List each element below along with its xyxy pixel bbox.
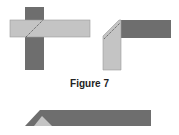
light-vertical-strip bbox=[103, 20, 121, 70]
dark-vertical-strip bbox=[25, 7, 44, 70]
figure-caption: Figure 7 bbox=[0, 78, 179, 89]
overlapping-strips bbox=[10, 7, 90, 70]
figure-diagram bbox=[0, 0, 179, 135]
dark-horizontal-strip bbox=[121, 20, 171, 38]
folded-edge bbox=[25, 110, 151, 126]
folded-corner bbox=[103, 20, 171, 70]
light-horizontal-strip bbox=[10, 20, 90, 37]
